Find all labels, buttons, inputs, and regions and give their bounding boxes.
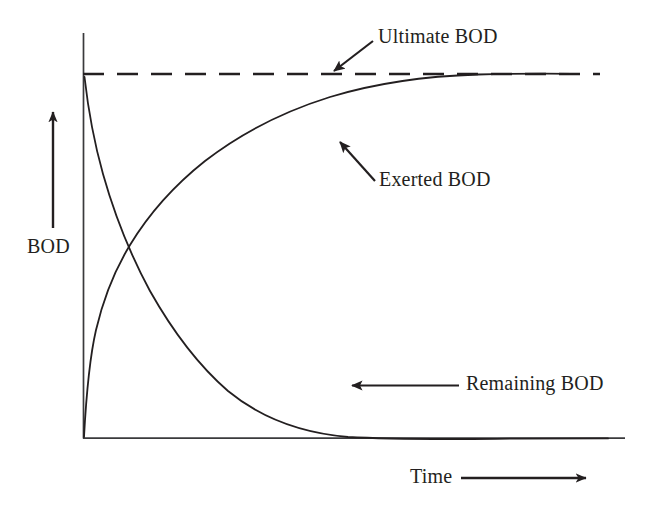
y-axis-label: BOD — [27, 236, 70, 256]
bod-curve-figure: Ultimate BOD Exerted BOD Remaining BOD B… — [0, 0, 653, 513]
exerted-bod-arrow-icon — [340, 142, 375, 181]
remaining-bod-label: Remaining BOD — [466, 373, 604, 393]
ultimate-bod-label: Ultimate BOD — [378, 26, 498, 46]
x-axis-label: Time — [410, 466, 452, 486]
figure-canvas — [0, 0, 653, 513]
ultimate-bod-arrow-icon — [334, 41, 373, 71]
exerted-bod-label: Exerted BOD — [379, 169, 491, 189]
